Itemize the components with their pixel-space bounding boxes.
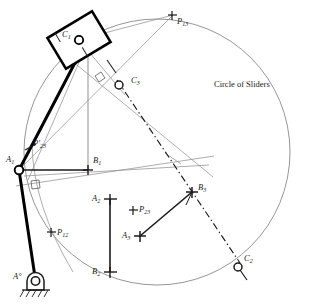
cross-marker-p23: [129, 206, 138, 215]
label-c1: C1: [62, 30, 71, 39]
ground-pivot-a0: [20, 273, 50, 298]
construction-line-slider-a1-light: [28, 60, 80, 180]
figure-root: C1 C3 C2 P13 P′23 P12 P23 A1 A° B1 A2 B2…: [0, 0, 314, 305]
point-marker-c3: [115, 81, 123, 89]
label-a3: A3: [122, 231, 130, 240]
cross-marker-b1: [83, 165, 93, 175]
label-c2: C2: [244, 254, 253, 263]
cross-marker-a2: [104, 194, 117, 205]
cross-marker-b2: [104, 267, 117, 278]
point-marker-c1: [75, 36, 83, 44]
label-p13: P13: [177, 17, 188, 26]
label-a0: A°: [13, 272, 22, 281]
label-p23: P23: [139, 205, 150, 214]
construction-line-a1-right-long: [16, 156, 214, 186]
label-p12: P12: [57, 228, 68, 237]
point-marker-a1: [15, 166, 24, 175]
right-angle-marker-lower: [31, 180, 40, 189]
link-a0-a1-crank: [19, 170, 35, 277]
label-p23-prime: P′23: [33, 139, 46, 148]
label-b2: B2: [92, 267, 100, 276]
label-c3: C3: [131, 76, 140, 85]
label-a1: A1: [6, 155, 14, 164]
point-marker-c2-stub: [240, 270, 247, 280]
label-b1: B1: [93, 156, 101, 165]
construction-arc-left: [32, 144, 73, 272]
label-a2: A2: [92, 194, 100, 203]
label-circle-of-sliders: Circle of Sliders: [214, 80, 270, 89]
label-b3: B3: [198, 183, 206, 192]
right-angle-marker-upper: [95, 72, 105, 82]
link-a1-c1-coupler: [19, 57, 78, 170]
slider-guide-stub: [107, 60, 116, 73]
diagram-canvas: [0, 0, 314, 305]
point-marker-c2: [234, 263, 242, 271]
